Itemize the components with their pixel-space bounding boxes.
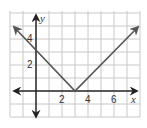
y-axis-label: y: [39, 12, 45, 24]
absolute-value-line: [14, 27, 138, 91]
y-tick-4: 4: [27, 33, 33, 44]
x-tick-2: 2: [59, 94, 65, 105]
x-tick-4: 4: [85, 94, 91, 105]
coordinate-plane: y x 2 4 6 4 2: [0, 0, 147, 128]
y-tick-2: 2: [27, 59, 33, 70]
x-axis-label: x: [130, 93, 136, 105]
x-tick-6: 6: [111, 94, 117, 105]
